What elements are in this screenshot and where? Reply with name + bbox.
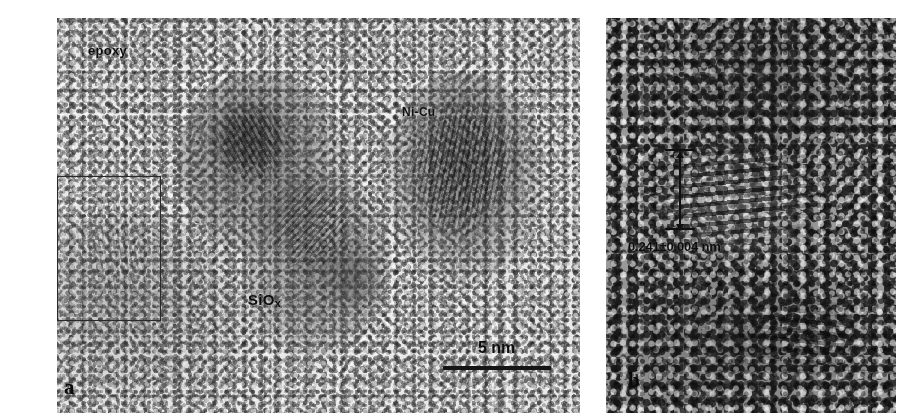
lattice-fringes-left-particle: [192, 82, 313, 202]
panel-b: 0.241±0.004 nm b: [606, 18, 896, 413]
panel-a: epoxy Ni-Cu SiOx 5 nm a: [57, 18, 580, 413]
scale-bar-label: 5 nm: [478, 340, 515, 356]
d-spacing-tick-lower: [665, 228, 695, 230]
scale-bar: [443, 366, 551, 370]
siox-label-base: SiO: [248, 291, 275, 308]
lattice-fringes-secondary: [721, 280, 880, 390]
panel-b-grain-bright: [606, 18, 896, 413]
nanoparticle-blob-small-mid: [319, 238, 389, 318]
inset-selection-rect[interactable]: [57, 176, 161, 321]
d-spacing-label: 0.241±0.004 nm: [628, 240, 721, 253]
lattice-fringes-center-particle: [234, 145, 389, 300]
figure-root: epoxy Ni-Cu SiOx 5 nm a 0.241±0.004 nm: [0, 0, 903, 420]
siox-label: SiOx: [248, 292, 281, 309]
panel-b-letter: b: [628, 368, 640, 393]
panel-b-grain-dark: [606, 18, 896, 413]
panel-b-dark-region-upper: [616, 18, 886, 168]
panel-a-letter: a: [64, 375, 75, 400]
d-spacing-tick-upper: [665, 149, 695, 151]
epoxy-label: epoxy: [88, 44, 127, 57]
nicu-label: Ni-Cu: [402, 106, 436, 118]
panel-b-grain-base: [606, 18, 896, 413]
panel-b-dark-region-lower: [606, 248, 896, 413]
siox-label-subscript: x: [275, 297, 281, 309]
d-spacing-arrow-head-top: [676, 151, 684, 158]
nanoparticle-blob-center: [242, 168, 392, 358]
d-spacing-arrow-line: [679, 158, 681, 230]
nanoparticle-blob-top-left: [207, 96, 289, 174]
nanoparticle-blob-left: [177, 70, 347, 255]
